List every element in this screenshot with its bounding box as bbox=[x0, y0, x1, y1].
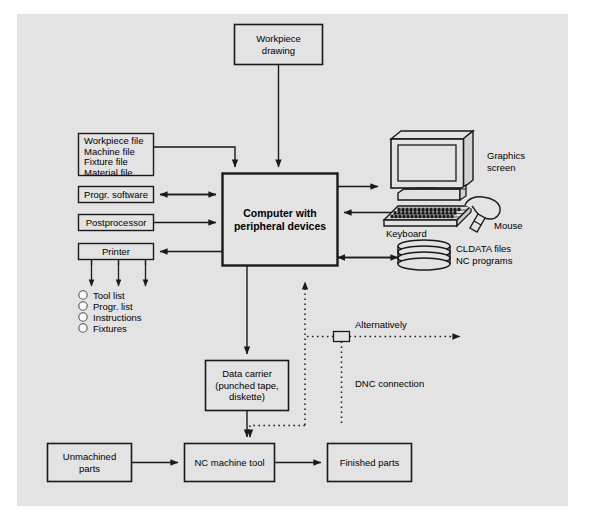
graphics-screen-line2: screen bbox=[487, 162, 525, 174]
computer-line2: peripheral devices bbox=[234, 220, 326, 233]
label-workpiece-drawing: Workpiece drawing bbox=[234, 24, 323, 65]
label-keyboard: Keyboard bbox=[386, 228, 427, 240]
data-carrier-line1: Data carrier bbox=[222, 368, 272, 380]
label-alternatively: Alternatively bbox=[355, 319, 407, 331]
label-unmachined-parts: Unmachined parts bbox=[47, 443, 132, 482]
label-data-carrier: Data carrier (punched tape, diskette) bbox=[205, 360, 289, 411]
workpiece-drawing-line2: drawing bbox=[262, 45, 295, 57]
label-graphics-screen: Graphics screen bbox=[487, 150, 525, 173]
data-carrier-line3: diskette) bbox=[229, 391, 265, 403]
label-nc-machine-tool: NC machine tool bbox=[184, 443, 275, 482]
printer-output-bullets bbox=[79, 291, 87, 332]
label-mouse: Mouse bbox=[494, 220, 523, 232]
connector-files-to-computer bbox=[154, 147, 236, 167]
printer-output-item: Fixtures bbox=[93, 323, 142, 334]
label-postprocessor: Postprocessor bbox=[78, 214, 154, 231]
printer-output-item: Tool list bbox=[93, 290, 142, 301]
label-finished-parts: Finished parts bbox=[327, 443, 412, 482]
file-line-4: Material file bbox=[84, 168, 144, 179]
label-file-list: Workpiece file Machine file Fixture file… bbox=[84, 136, 144, 178]
printer-output-item: Progr. list bbox=[93, 301, 142, 312]
unmachined-line1: Unmachined bbox=[63, 451, 116, 463]
graphics-screen-line1: Graphics bbox=[487, 150, 525, 162]
file-line-1: Workpiece file bbox=[84, 136, 144, 147]
printer-output-item: Instructions bbox=[93, 312, 142, 323]
diagram-root: Workpiece drawing Workpiece file Machine… bbox=[0, 0, 593, 524]
data-carrier-line2: (punched tape, bbox=[215, 380, 278, 392]
printer-output-list: Tool list Progr. list Instructions Fixtu… bbox=[93, 290, 142, 334]
box-alternatively-node bbox=[334, 332, 350, 342]
graphics-screen-icon bbox=[391, 131, 473, 200]
label-progr-software: Progr. software bbox=[78, 186, 154, 203]
keyboard-icon bbox=[384, 206, 471, 226]
disk-stack-icon bbox=[398, 240, 450, 270]
label-printer: Printer bbox=[78, 243, 154, 260]
label-dnc-connection: DNC connection bbox=[355, 378, 424, 390]
unmachined-line2: parts bbox=[79, 463, 100, 475]
storage-line1: CLDATA files bbox=[456, 243, 513, 255]
connector-dnc-to-machine bbox=[250, 426, 305, 438]
workpiece-drawing-line1: Workpiece bbox=[256, 33, 301, 45]
label-storage: CLDATA files NC programs bbox=[456, 243, 513, 266]
computer-line1: Computer with bbox=[243, 207, 317, 220]
storage-line2: NC programs bbox=[456, 255, 513, 267]
label-computer: Computer with peripheral devices bbox=[222, 173, 338, 266]
